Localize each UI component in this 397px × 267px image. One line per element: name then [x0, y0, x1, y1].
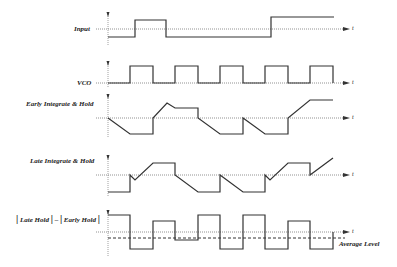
early-waveform — [108, 100, 333, 134]
late-hold-text: Late Hold — [20, 216, 49, 224]
abs-bar: | — [51, 213, 53, 224]
up-arrow-icon — [107, 210, 110, 215]
abs-bar: | — [60, 213, 62, 224]
vco-trace — [96, 61, 350, 87]
right-arrow-icon — [343, 173, 350, 177]
time-axis-label: t — [352, 171, 354, 177]
late-integrate-label: Late Integrate & Hold — [30, 157, 94, 165]
vco-waveform — [108, 66, 333, 83]
up-arrow-icon — [107, 12, 110, 17]
input-label: Input — [74, 25, 90, 33]
time-axis-label: t — [352, 114, 354, 120]
right-arrow-icon — [343, 81, 350, 85]
right-arrow-icon — [343, 116, 350, 120]
late-waveform — [108, 158, 333, 192]
right-arrow-icon — [343, 230, 350, 234]
difference-waveform — [108, 215, 333, 249]
early-hold-text: Early Hold — [64, 216, 96, 224]
up-arrow-icon — [107, 94, 110, 99]
right-arrow-icon — [343, 27, 350, 31]
up-arrow-icon — [107, 155, 110, 160]
input-waveform — [108, 17, 334, 37]
time-axis-label: t — [352, 25, 354, 31]
difference-trace — [96, 210, 350, 256]
minus-sign: – — [55, 216, 59, 224]
early-integrate-label: Early Integrate & Hold — [26, 100, 93, 108]
time-axis-label: t — [352, 79, 354, 85]
average-level-label: Average Level — [339, 240, 380, 248]
abs-bar: | — [16, 213, 18, 224]
input-trace — [96, 12, 350, 45]
vco-label: VCO — [77, 79, 91, 87]
timing-diagram — [0, 0, 397, 267]
abs-bar: | — [98, 213, 100, 224]
time-axis-label: t — [352, 228, 354, 234]
difference-label: | Late Hold | – | Early Hold | — [16, 213, 100, 224]
up-arrow-icon — [107, 61, 110, 66]
late-trace — [96, 155, 350, 196]
early-trace — [96, 94, 350, 137]
